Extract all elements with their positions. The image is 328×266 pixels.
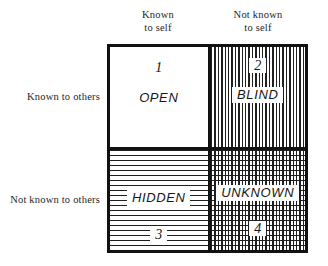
column-header-known-to-self-line2: to self <box>108 21 208 34</box>
row-header-known-to-others: Known to others <box>0 90 100 103</box>
quadrant-hidden[interactable]: HIDDEN 3 <box>110 147 208 250</box>
column-header-not-known-to-self-line1: Not known <box>208 8 308 21</box>
quadrant-unknown[interactable]: UNKNOWN 4 <box>208 147 306 250</box>
quadrant-hidden-label: HIDDEN <box>127 190 190 206</box>
quadrant-hidden-number: 3 <box>150 227 167 242</box>
quadrant-open-number: 1 <box>150 60 167 75</box>
quadrant-open[interactable]: 1 OPEN <box>110 47 208 147</box>
quadrant-open-label: OPEN <box>134 90 183 106</box>
column-header-not-known-to-self: Not known to self <box>208 8 308 34</box>
column-header-known-to-self-line1: Known <box>108 8 208 21</box>
quadrant-blind-label: BLIND <box>232 87 283 103</box>
johari-window-grid: 1 OPEN 2 BLIND HIDDEN 3 UNKNOWN 4 <box>107 44 308 253</box>
row-header-not-known-to-others: Not known to others <box>0 193 100 206</box>
quadrant-unknown-number: 4 <box>249 221 266 236</box>
quadrant-blind[interactable]: 2 BLIND <box>208 47 306 147</box>
quadrant-unknown-label: UNKNOWN <box>216 185 299 201</box>
column-header-not-known-to-self-line2: to self <box>208 21 308 34</box>
quadrant-blind-number: 2 <box>249 58 266 73</box>
column-header-known-to-self: Known to self <box>108 8 208 34</box>
